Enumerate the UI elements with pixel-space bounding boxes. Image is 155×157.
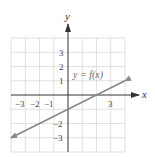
- x-axis-label: x: [141, 88, 147, 100]
- x-tick-label: 3: [108, 99, 113, 109]
- function-label: y = f(x): [72, 69, 104, 81]
- chart-canvas: x y −3 −2 −1 3 3 2 1 −2 −3 y = f(x): [0, 0, 155, 157]
- y-tick-label: 1: [59, 76, 64, 86]
- x-tick-label: −1: [44, 99, 54, 109]
- y-tick-label: 3: [59, 48, 64, 58]
- y-tick-label: −2: [53, 119, 63, 129]
- y-tick-label: −3: [53, 133, 63, 143]
- x-tick-label: −3: [15, 99, 25, 109]
- y-tick-label: 2: [59, 62, 64, 72]
- x-tick-label: −2: [30, 99, 40, 109]
- y-axis-label: y: [64, 10, 70, 22]
